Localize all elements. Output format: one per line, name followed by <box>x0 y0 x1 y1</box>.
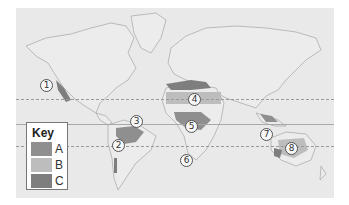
region-marker-8: 8 <box>285 142 298 155</box>
key-label-c: C <box>55 174 64 188</box>
region-marker-1: 1 <box>40 79 53 92</box>
map-key: Key A B C <box>26 122 68 190</box>
swatch-a <box>31 142 52 156</box>
key-item-c: C <box>31 174 67 189</box>
key-item-b: B <box>31 158 67 173</box>
region-marker-2: 2 <box>112 139 125 152</box>
region-marker-7: 7 <box>260 128 273 141</box>
tropic-of-cancer-line <box>16 99 334 100</box>
key-title: Key <box>32 126 54 140</box>
swatch-c <box>31 174 52 188</box>
region-marker-4: 4 <box>188 93 201 106</box>
swatch-b <box>31 158 52 172</box>
region-marker-3: 3 <box>130 115 143 128</box>
key-label-a: A <box>55 142 63 156</box>
region-marker-5: 5 <box>185 120 198 133</box>
region-marker-6: 6 <box>180 154 193 167</box>
key-label-b: B <box>55 158 63 172</box>
key-item-a: A <box>31 142 67 157</box>
